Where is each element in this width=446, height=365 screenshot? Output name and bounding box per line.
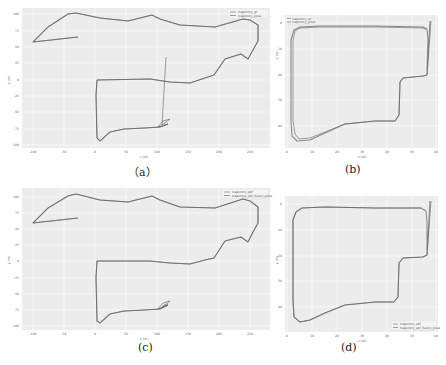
svg-text:-100: -100 [12,324,19,328]
y-axis-label-c: y (m) [7,256,11,265]
svg-text:0: 0 [286,334,288,338]
legend-entry-2-c: trajectory_ekf_fusion_pose [232,194,272,198]
svg-text:50: 50 [124,332,128,336]
svg-text:50: 50 [15,227,19,231]
svg-text:0: 0 [280,202,282,206]
svg-text:-100: -100 [29,332,36,336]
legend-entry-2-a: trajectory_pose [238,14,261,18]
svg-text:50: 50 [124,150,128,154]
svg-text:-100: -100 [12,143,19,147]
legend-entry-2-d: trajectory_ekf_fusion_pose [400,326,440,330]
chart-panel-c: 100 75 50 25 0 -25 -50 -75 -100 -100 -50… [0,180,275,345]
x-ticks-b: 0 10 20 30 40 50 60 [286,150,438,154]
plot-area-b [285,15,438,148]
svg-text:0: 0 [280,21,282,25]
legend-c: trajectory_ekf trajectory_ekf_fusion_pos… [222,189,272,198]
svg-text:-50: -50 [61,332,66,336]
svg-text:200: 200 [216,332,222,336]
legend-b: trajectory_gt trajectory_pose [286,16,315,24]
svg-text:100: 100 [13,195,19,199]
svg-text:75: 75 [15,29,19,33]
svg-text:-10: -10 [277,228,282,232]
x-axis-label-b: x (m) [358,155,367,159]
x-ticks-d: 0 10 20 30 40 50 60 [286,334,438,338]
svg-text:-75: -75 [14,308,19,312]
x-ticks-a: -100 -50 0 50 100 150 200 250 [29,150,253,154]
svg-text:25: 25 [15,61,19,65]
caption-b: (b) [345,163,361,176]
svg-text:-50: -50 [61,150,66,154]
svg-text:50: 50 [410,334,414,338]
svg-text:-75: -75 [14,127,19,131]
legend-entry-2-b: trajectory_pose [292,20,315,24]
chart-panel-d: 0 -10 -20 -30 -40 0 10 20 30 40 50 60 x … [275,180,446,345]
svg-text:200: 200 [216,150,222,154]
svg-text:-50: -50 [14,110,19,114]
svg-text:150: 150 [185,332,191,336]
x-axis-label-d: x (m) [358,339,367,343]
svg-text:-50: -50 [14,292,19,296]
plot-area-d [285,196,438,332]
legend-a: trajectory_gt trajectory_pose [228,9,268,18]
svg-text:-10: -10 [277,47,282,51]
svg-text:60: 60 [434,334,438,338]
svg-text:-20: -20 [277,73,282,77]
svg-text:100: 100 [13,12,19,16]
svg-text:100: 100 [154,150,160,154]
svg-text:-40: -40 [277,124,282,128]
svg-text:30: 30 [360,334,364,338]
x-ticks-c: -100 -50 0 50 100 150 200 250 [29,332,253,336]
y-ticks-b: 0 -10 -20 -30 -40 [277,21,282,128]
y-ticks-a: 100 75 50 25 0 -25 -50 -75 -100 [12,12,19,147]
svg-text:100: 100 [154,332,160,336]
svg-text:60: 60 [434,150,438,154]
svg-text:50: 50 [15,45,19,49]
svg-text:20: 20 [335,150,339,154]
svg-text:10: 10 [310,150,314,154]
svg-text:50: 50 [410,150,414,154]
svg-text:-30: -30 [277,279,282,283]
y-ticks-c: 100 75 50 25 0 -25 -50 -75 -100 [12,195,19,328]
svg-text:0: 0 [286,150,288,154]
chart-panel-b: 0 -10 -20 -30 -40 0 10 20 30 40 50 60 x … [275,0,446,165]
svg-text:-25: -25 [14,276,19,280]
y-axis-label-a: y (m) [7,76,11,85]
svg-text:0: 0 [94,150,96,154]
y-ticks-d: 0 -10 -20 -30 -40 [277,202,282,309]
svg-text:-25: -25 [14,94,19,98]
svg-text:250: 250 [247,150,253,154]
svg-text:150: 150 [185,150,191,154]
caption-a: （a） [128,163,157,179]
svg-text:20: 20 [335,334,339,338]
svg-text:250: 250 [247,332,253,336]
svg-text:75: 75 [15,211,19,215]
caption-d: (d) [341,341,357,354]
svg-text:25: 25 [15,243,19,247]
caption-c: (c) [138,341,153,354]
svg-text:40: 40 [385,334,389,338]
svg-text:0: 0 [17,259,19,263]
y-axis-label-d: y (m) [275,256,279,265]
svg-text:40: 40 [385,150,389,154]
plot-area-a [22,8,270,148]
svg-text:-40: -40 [277,305,282,309]
svg-text:-30: -30 [277,98,282,102]
y-axis-label-b: y (m) [275,51,279,60]
svg-text:-100: -100 [29,150,36,154]
svg-text:0: 0 [94,332,96,336]
svg-text:10: 10 [310,334,314,338]
legend-d: trajectory_ekf trajectory_ekf_fusion_pos… [391,321,440,330]
svg-text:30: 30 [360,150,364,154]
chart-panel-a: 100 75 50 25 0 -25 -50 -75 -100 -100 -50… [0,0,275,165]
x-axis-label-a: x (m) [140,155,149,159]
svg-text:0: 0 [17,78,19,82]
plot-area-c [22,188,270,330]
